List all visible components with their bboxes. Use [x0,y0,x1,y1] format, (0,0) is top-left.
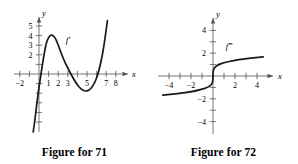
figures-container: −2 1 2 3 5 7 8 5 4 3 2 x y f′ F [0,0,298,164]
x-tick-label-4: 4 [255,81,259,90]
figure-caption-71: Figure for 71 [0,146,155,158]
figure-caption-72: Figure for 72 [149,146,298,158]
graph-svg-71: −2 1 2 3 5 7 8 5 4 3 2 x y f′ [0,0,149,138]
y-axis-arrow [37,17,41,23]
y-axis-arrow [211,18,215,24]
x-axis-label: x [131,69,136,79]
x-axis-label: x [277,71,282,81]
figure-panel-71: −2 1 2 3 5 7 8 5 4 3 2 x y f′ F [0,0,149,164]
curve-label-f-prime: f′ [66,35,72,45]
x-axis-arrow [268,74,274,78]
y-axis-label: y [41,8,46,18]
x-tick-label-7: 7 [104,79,108,88]
x-tick-label-5: 5 [85,79,89,88]
curve-label-f-triple-prime: f‴ [226,41,234,51]
x-tick-label-1: 1 [47,79,51,88]
x-tick-label-neg2: −2 [16,79,25,88]
x-tick-label-8: 8 [114,79,118,88]
plot-area-72: −4 −2 2 4 4 2 −2 −4 x y f‴ [149,0,298,138]
x-tick-label-3: 3 [66,79,70,88]
x-tick-label-2: 2 [56,79,60,88]
y-tick-label-neg4: −4 [197,118,206,127]
x-tick-label-neg2: −2 [187,81,196,90]
y-tick-label-neg2: −2 [197,95,206,104]
figure-panel-72: −4 −2 2 4 4 2 −2 −4 x y f‴ Figure for 72 [149,0,298,164]
x-tick-label-neg4: −4 [165,81,174,90]
x-axis-arrow [123,72,129,76]
x-tick-label-2: 2 [233,81,237,90]
y-tick-label-2: 2 [202,49,206,58]
graph-svg-72: −4 −2 2 4 4 2 −2 −4 x y f‴ [149,0,298,138]
y-axis-label: y [215,9,220,19]
y-tick-label-2: 2 [29,51,33,60]
y-tick-label-3: 3 [29,41,33,50]
plot-area-71: −2 1 2 3 5 7 8 5 4 3 2 x y f′ [0,0,149,138]
y-tick-label-5: 5 [29,22,33,31]
y-tick-label-4: 4 [202,26,206,35]
y-tick-label-4: 4 [29,32,33,41]
